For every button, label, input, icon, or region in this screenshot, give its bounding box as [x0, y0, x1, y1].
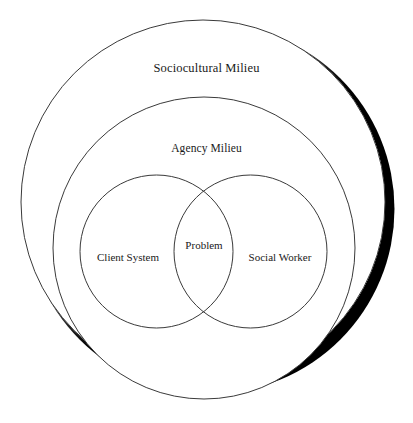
agency-milieu-label: Agency Milieu [0, 142, 413, 155]
problem-label: Problem [172, 239, 236, 251]
social-worker-label: Social Worker [232, 251, 328, 263]
diagram-canvas: Sociocultural Milieu Agency Milieu Clien… [0, 0, 413, 423]
sociocultural-milieu-label: Sociocultural Milieu [0, 62, 413, 76]
client-system-label: Client System [82, 251, 174, 263]
